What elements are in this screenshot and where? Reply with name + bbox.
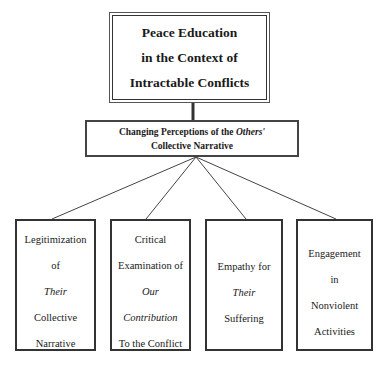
leaf-line: Their <box>44 279 67 305</box>
connector-critical-examination <box>146 157 196 219</box>
middle-node-changing-perceptions: Changing Perceptions of the Others' Coll… <box>85 120 299 157</box>
leaf-line: Critical <box>135 227 167 253</box>
connector-engagement <box>196 157 336 219</box>
leaf-line: Our <box>142 279 159 305</box>
middle-line-1: Changing Perceptions of the Others' <box>119 125 265 139</box>
leaf-line: Contribution <box>123 305 177 331</box>
middle-line-1-text: Changing Perceptions of the <box>119 127 236 137</box>
leaf-line: of <box>51 253 60 279</box>
connector-empathy <box>196 157 246 219</box>
leaf-line: in <box>330 267 338 293</box>
leaf-line: Examination of <box>118 253 183 279</box>
middle-line-1-italic: Others' <box>236 127 265 137</box>
leaf-node-legitimization: Legitimization of Their Collective Narra… <box>15 219 96 351</box>
middle-line-2: Collective Narrative <box>151 139 233 153</box>
leaf-line: Activities <box>314 319 355 345</box>
leaf-line: To the Conflict <box>119 331 182 357</box>
root-line-2: in the Context of <box>141 50 237 65</box>
leaf-line: Empathy for <box>218 254 271 280</box>
leaf-line: Their <box>233 280 256 306</box>
root-line-3: Intractable Conflicts <box>130 75 250 90</box>
leaf-node-critical-examination: Critical Examination of Our Contribution… <box>110 219 191 351</box>
leaf-line: Legitimization <box>25 227 87 253</box>
leaf-line: Engagement <box>308 241 360 267</box>
root-node-peace-education: Peace Education in the Context of Intrac… <box>109 12 270 103</box>
leaf-line: Nonviolent <box>311 293 358 319</box>
connector-legitimization <box>52 157 196 219</box>
leaf-node-engagement: Engagement in Nonviolent Activities <box>296 219 373 351</box>
leaf-line: Narrative <box>36 331 76 357</box>
leaf-line: Suffering <box>224 306 263 332</box>
leaf-line: Collective <box>34 305 77 331</box>
root-line-1: Peace Education <box>142 25 238 40</box>
leaf-node-empathy: Empathy for Their Suffering <box>205 219 283 351</box>
